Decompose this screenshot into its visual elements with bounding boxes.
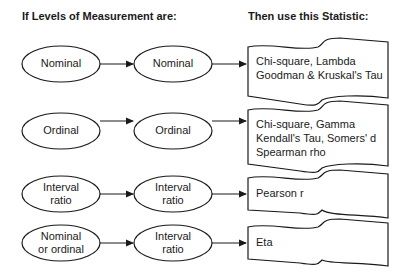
row1-second-label: Nominal — [134, 57, 212, 70]
row4-second-label: Intervalratio — [134, 230, 212, 256]
row3-second-label: Intervalratio — [134, 181, 212, 207]
row3-statistics: Pearson r — [256, 186, 304, 200]
row2-second-label: Ordinal — [134, 124, 212, 137]
row2-statistics: Chi-square, Gamma Kendall's Tau, Somers'… — [256, 117, 376, 159]
row4-statistics: Eta — [256, 235, 273, 249]
row3-first-label: Intervalratio — [22, 181, 100, 207]
row1-statistics: Chi-square, Lambda Goodman & Kruskal's T… — [256, 54, 383, 82]
row1-first-label: Nominal — [22, 57, 100, 70]
row4-first-label: Nominalor ordinal — [22, 230, 100, 256]
row2-first-label: Ordinal — [22, 124, 100, 137]
